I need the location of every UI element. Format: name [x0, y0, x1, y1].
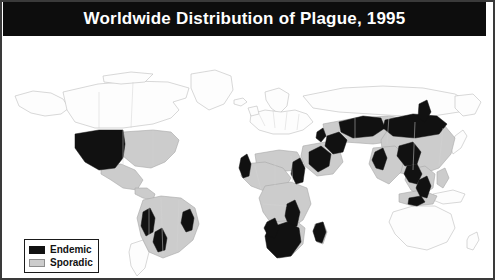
region-endemic-western-usa	[75, 130, 125, 170]
sporadic-swatch	[29, 259, 45, 267]
land-siberia	[303, 86, 469, 116]
land-scandinavia	[265, 88, 289, 114]
land-iceland	[234, 98, 247, 106]
land-alaska	[15, 91, 69, 116]
page-title: Worldwide Distribution of Plague, 1995	[84, 9, 406, 29]
region-endemic-northwest-africa	[239, 154, 251, 178]
land-europe	[250, 110, 313, 134]
legend-row-endemic: Endemic	[29, 244, 94, 256]
map-legend: Endemic Sporadic	[24, 239, 99, 273]
land-australia	[389, 206, 455, 250]
region-sporadic-philippines	[437, 168, 449, 188]
title-bar: Worldwide Distribution of Plague, 1995	[3, 2, 486, 36]
land-new-guinea	[433, 190, 465, 204]
land-greenland	[191, 70, 233, 110]
legend-label-sporadic: Sporadic	[50, 258, 93, 268]
land-far-east-russia	[455, 94, 481, 116]
land-canada	[63, 81, 189, 128]
region-sporadic-eastern-usa	[119, 130, 179, 168]
plague-distribution-figure: Worldwide Distribution of Plague, 1995	[0, 0, 495, 280]
legend-row-sporadic: Sporadic	[29, 257, 94, 269]
endemic-swatch	[29, 246, 45, 254]
land-new-zealand	[467, 232, 479, 250]
legend-label-endemic: Endemic	[50, 245, 92, 255]
land-british-isles	[248, 106, 259, 116]
